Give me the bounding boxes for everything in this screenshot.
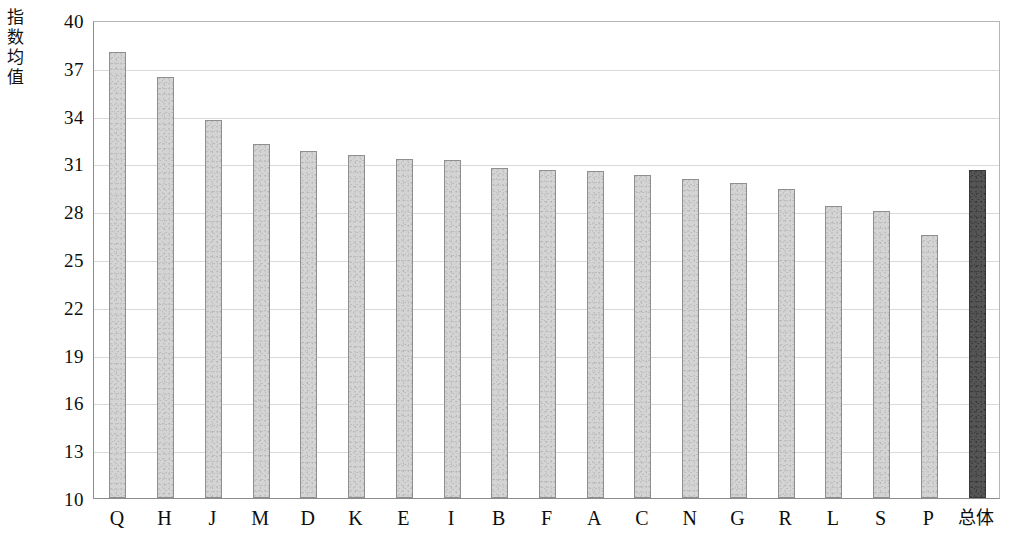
x-axis-tick-label: K: [348, 505, 362, 531]
x-axis-tick-labels: QHJMDKEIBFACNGRLSP总体: [93, 505, 1000, 538]
y-axis-tick-labels: 4037343128252219161310: [32, 0, 84, 538]
x-axis-tick-label: J: [208, 505, 216, 531]
bar-chart: 指 数 均 值 4037343128252219161310 QHJMDKEIB…: [0, 0, 1011, 538]
y-axis-tick-label: 31: [32, 155, 84, 174]
bar: [157, 77, 174, 498]
bar: [873, 211, 890, 498]
y-axis-tick-label: 40: [32, 12, 84, 31]
y-axis-tick-label: 19: [32, 346, 84, 365]
x-axis-tick-label: R: [779, 505, 792, 531]
y-axis-title-char: 值: [2, 68, 28, 88]
bar: [205, 120, 222, 498]
bar: [969, 170, 986, 498]
y-axis-tick-label: 28: [32, 203, 84, 222]
bar: [682, 179, 699, 498]
bar: [396, 159, 413, 498]
x-axis-tick-label: B: [492, 505, 505, 531]
bar: [109, 52, 126, 498]
y-axis-tick-label: 22: [32, 298, 84, 317]
bar: [825, 206, 842, 498]
bar: [348, 155, 365, 498]
x-axis-tick-label: N: [682, 505, 696, 531]
y-axis-title-char: 指: [2, 8, 28, 28]
bar: [491, 168, 508, 498]
bar: [253, 144, 270, 498]
plot-area: [93, 21, 1000, 499]
y-axis-tick-label: 13: [32, 442, 84, 461]
y-axis-tick-label: 10: [32, 490, 84, 509]
x-axis-tick-label: H: [157, 505, 171, 531]
bar: [587, 171, 604, 498]
bar: [730, 183, 747, 498]
x-axis-tick-label: A: [587, 505, 601, 531]
y-axis-tick-label: 16: [32, 394, 84, 413]
x-axis-tick-label: Q: [110, 505, 124, 531]
y-axis-title: 指 数 均 值: [2, 8, 28, 88]
y-axis-title-char: 数: [2, 28, 28, 48]
x-axis-tick-label: 总体: [958, 505, 994, 531]
x-axis-tick-label: I: [448, 505, 455, 531]
bar: [539, 170, 556, 498]
x-axis-tick-label: C: [635, 505, 648, 531]
y-axis-tick-label: 25: [32, 251, 84, 270]
x-axis-tick-label: L: [827, 505, 839, 531]
bar: [634, 175, 651, 498]
x-axis-tick-label: P: [923, 505, 934, 531]
x-axis-tick-label: G: [730, 505, 744, 531]
x-axis-tick-label: E: [397, 505, 409, 531]
bar: [444, 160, 461, 498]
x-axis-tick-label: M: [251, 505, 269, 531]
bars-layer: [94, 22, 999, 498]
x-axis-tick-label: F: [541, 505, 552, 531]
y-axis-title-char: 均: [2, 48, 28, 68]
bar: [921, 235, 938, 498]
x-axis-tick-label: S: [875, 505, 886, 531]
y-axis-tick-label: 34: [32, 107, 84, 126]
bar: [778, 189, 795, 498]
y-axis-tick-label: 37: [32, 59, 84, 78]
x-axis-tick-label: D: [301, 505, 315, 531]
bar: [300, 151, 317, 498]
